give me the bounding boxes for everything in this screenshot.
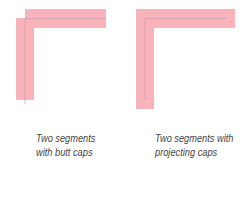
caption-line: Two segments with: [155, 131, 233, 145]
line-cap-diagram: [0, 0, 242, 206]
caption-line: Two segments: [36, 131, 95, 145]
projecting-caps-figure: [136, 9, 235, 109]
caption-line: with butt caps: [36, 145, 95, 159]
butt-caps-figure: [16, 9, 106, 104]
caption-butt-caps: Two segments with butt caps: [36, 131, 95, 159]
caption-projecting-caps: Two segments with projecting caps: [155, 131, 233, 159]
projecting-stroke-shape: [136, 9, 235, 109]
caption-line: projecting caps: [155, 145, 233, 159]
